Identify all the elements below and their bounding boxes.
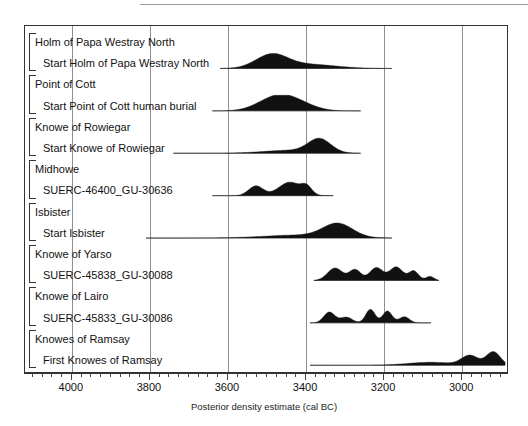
axis-tick-minor [256,373,257,377]
axis-tick-minor [422,373,423,377]
axis-tick-major-3000 [461,373,462,380]
axis-tick-minor [403,373,404,377]
axis-tick-minor [334,373,335,377]
axis-tick-minor [100,373,101,377]
axis-tick-label-3400: 3400 [293,381,317,393]
axis-tick-minor [42,373,43,377]
axis-tick-minor [266,373,267,377]
gridline-3400 [306,26,307,372]
axis-tick-minor [286,373,287,377]
posterior-distribution [310,352,505,366]
axis-tick-major-3600 [227,373,228,380]
axis-tick-minor [81,373,82,377]
axis-tick-minor [188,373,189,377]
axis-tick-minor [246,373,247,377]
x-axis-title: Posterior density estimate (cal BC) [0,401,528,412]
group-label: Knowe of Lairo [35,286,108,307]
posterior-distribution [173,138,360,153]
axis-tick-major-3200 [383,373,384,380]
group-label: Knowe of Rowiegar [35,117,130,138]
axis-tick-minor [373,373,374,377]
axis-tick-minor [295,373,296,377]
axis-tick-minor [178,373,179,377]
axis-tick-label-3600: 3600 [215,381,239,393]
posterior-distribution [146,223,392,238]
item-label: Start Holm of Papa Westray North [43,53,209,74]
item-label: Start Point of Cott human burial [43,96,196,117]
plot-frame: Holm of Papa Westray NorthStart Holm of … [24,25,508,373]
axis-tick-minor [237,373,238,377]
axis-tick-minor [198,373,199,377]
axis-tick-minor [129,373,130,377]
axis-tick-minor [451,373,452,377]
item-label: SUERC-45833_GU-30086 [43,308,173,329]
axis-tick-minor [354,373,355,377]
group-label: Knowe of Yarso [35,244,112,265]
axis-tick-minor [120,373,121,377]
axis-tick-major-4000 [71,373,72,380]
axis-tick-major-3800 [149,373,150,380]
axis-tick-minor [159,373,160,377]
axis-tick-minor [500,373,501,377]
group-label: Holm of Papa Westray North [35,32,175,53]
axis-tick-minor [432,373,433,377]
axis-tick-minor [364,373,365,377]
axis-tick-minor [32,373,33,377]
gridline-3200 [384,26,385,372]
group-label: Point of Cott [35,74,96,95]
axis-tick-minor [393,373,394,377]
posterior-distribution [310,309,431,323]
axis-tick-minor [315,373,316,377]
axis-tick-minor [110,373,111,377]
gridline-3000 [462,26,463,372]
axis-tick-minor [207,373,208,377]
axis-tick-major-3400 [305,373,306,380]
axis-tick-minor [276,373,277,377]
posterior-distribution [212,182,333,196]
item-label: SUERC-45838_GU-30088 [43,265,173,286]
item-label: Start Isbister [43,223,105,244]
axis-tick-minor [51,373,52,377]
axis-tick-minor [442,373,443,377]
axis-tick-minor [90,373,91,377]
axis-tick-label-3800: 3800 [137,381,161,393]
group-label: Midhowe [35,159,79,180]
axis-tick-minor [344,373,345,377]
plot-area: Holm of Papa Westray NorthStart Holm of … [25,26,507,372]
axis-tick-minor [412,373,413,377]
axis-tick-label-4000: 4000 [59,381,83,393]
axis-tick-minor [481,373,482,377]
posterior-distribution [212,95,360,111]
gridline-3600 [228,26,229,372]
posterior-distribution [314,267,439,281]
axis-tick-minor [61,373,62,377]
group-label: Isbister [35,202,70,223]
axis-tick-minor [139,373,140,377]
item-label: Start Knowe of Rowiegar [43,138,165,159]
group-label: Knowes of Ramsay [35,329,130,350]
axis-tick-label-3000: 3000 [449,381,473,393]
axis-tick-label-3200: 3200 [371,381,395,393]
page-header-rule [140,4,528,5]
axis-tick-minor [325,373,326,377]
chart-root: Holm of Papa Westray NorthStart Holm of … [0,0,528,426]
item-label: SUERC-46400_GU-30636 [43,180,173,201]
axis-tick-minor [217,373,218,377]
axis-tick-minor [490,373,491,377]
item-label: First Knowes of Ramsay [43,350,162,371]
axis-tick-minor [168,373,169,377]
axis-tick-minor [471,373,472,377]
